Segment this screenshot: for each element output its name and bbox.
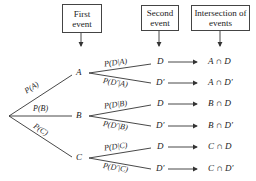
second-event-label: Second event — [142, 8, 178, 28]
intersection-B-Dprime: B ∩ D′ — [208, 120, 233, 130]
outcome-B-D: D — [157, 98, 164, 108]
first-event-label: First event — [63, 9, 101, 29]
outcome-A-Dprime: D′ — [156, 77, 164, 87]
intersection-C-D: C ∩ D — [208, 141, 232, 151]
outcome-A-D: D — [157, 56, 164, 66]
intersection-box: Intersection of events — [191, 5, 250, 31]
intersection-A-D: A ∩ D — [208, 56, 231, 66]
intersection-A-Dprime: A ∩ D′ — [208, 77, 233, 87]
second-event-box: Second event — [141, 5, 179, 31]
intersection-B-D: B ∩ D — [208, 98, 231, 108]
intersection-label: Intersection of events — [192, 8, 249, 28]
node-B: B — [76, 110, 82, 120]
intersection-C-Dprime: C ∩ D′ — [208, 163, 233, 173]
branch-C — [9, 116, 72, 157]
node-C: C — [76, 152, 82, 162]
first-event-box: First event — [62, 4, 102, 33]
prob-B: P(B) — [33, 104, 48, 113]
outcome-C-Dprime: D′ — [156, 163, 164, 173]
node-A: A — [76, 67, 82, 77]
outcome-B-Dprime: D′ — [156, 120, 164, 130]
outcome-C-D: D — [157, 141, 164, 151]
